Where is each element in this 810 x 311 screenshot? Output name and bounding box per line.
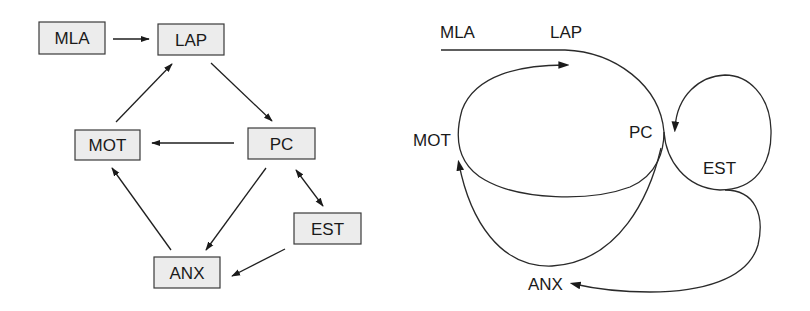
edge-pc-anx [206, 168, 266, 250]
node-label: MLA [55, 29, 91, 48]
node-anx[interactable]: ANX [154, 257, 220, 288]
node-label: MOT [89, 136, 127, 155]
node-lap[interactable]: LAP [158, 24, 224, 55]
node-mot[interactable]: MOT [75, 130, 140, 160]
edge-est-anx [232, 249, 285, 276]
label-mla: MLA [440, 23, 476, 42]
path-est-anx [574, 190, 760, 292]
edge-anx-mot [112, 168, 171, 250]
node-est[interactable]: EST [294, 213, 361, 244]
node-label: ANX [170, 264, 205, 283]
edge-pc-est [296, 170, 323, 206]
edge-mot-lap [116, 64, 172, 122]
path-pc-anx-mot [459, 148, 661, 266]
label-pc: PC [629, 123, 653, 142]
label-lap: LAP [550, 23, 582, 42]
node-label: PC [270, 135, 294, 154]
diagram-canvas: MLA LAP MOT PC EST ANX [0, 0, 810, 311]
label-mot: MOT [413, 131, 451, 150]
label-anx: ANX [528, 275, 563, 294]
node-mla[interactable]: MLA [39, 22, 105, 54]
node-label: LAP [175, 31, 207, 50]
edge-lap-pc [211, 63, 272, 121]
left-diagram: MLA LAP MOT PC EST ANX [39, 22, 361, 288]
node-pc[interactable]: PC [248, 128, 315, 159]
label-est: EST [703, 159, 736, 178]
node-label: EST [311, 220, 344, 239]
right-diagram: MLA LAP MOT PC EST ANX [413, 23, 771, 294]
